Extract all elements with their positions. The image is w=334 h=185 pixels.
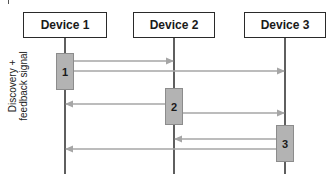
step-3-label: 3: [282, 138, 288, 150]
device-2-label: Device 2: [150, 18, 199, 32]
step-2-label: 2: [171, 101, 177, 113]
step-1-label: 1: [62, 66, 68, 78]
device-3-box: Device 3: [244, 12, 326, 38]
activation-box-1: 1: [56, 53, 74, 90]
device-3-label: Device 3: [261, 18, 310, 32]
discovery-feedback-label: Discovery + feedback signal: [7, 46, 29, 126]
activation-box-2: 2: [165, 88, 183, 125]
activation-box-3: 3: [276, 125, 294, 162]
device-1-label: Device 1: [41, 18, 90, 32]
device-1-box: Device 1: [23, 12, 107, 38]
device-2-box: Device 2: [133, 12, 215, 38]
